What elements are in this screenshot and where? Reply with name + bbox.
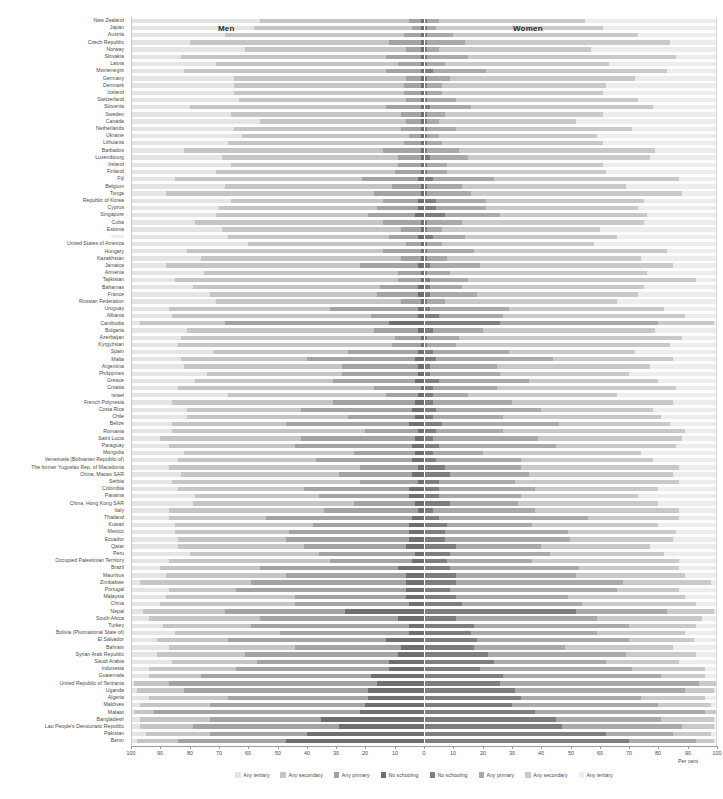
bar-segment <box>424 516 439 520</box>
bar-segment <box>477 292 638 296</box>
bar-segment <box>424 696 521 700</box>
bar-segment <box>131 472 181 476</box>
bar-segment <box>427 55 468 59</box>
bar-segment <box>406 47 421 51</box>
country-label: Jamaica <box>0 262 128 269</box>
country-label: China <box>0 600 128 607</box>
bar-segment <box>679 465 717 469</box>
women-bar <box>424 566 717 570</box>
bar-segment <box>661 415 717 419</box>
legend-item[interactable]: Any secondary <box>280 772 322 778</box>
bar-segment <box>427 249 474 253</box>
bar-segment <box>424 602 462 606</box>
bar-segment <box>131 191 166 195</box>
bar-segment <box>184 451 354 455</box>
bar-segment <box>439 119 577 123</box>
bar-segment <box>131 357 181 361</box>
bar-segment <box>427 299 445 303</box>
axis-tick-label: 30 <box>509 750 515 756</box>
men-bar <box>131 328 424 332</box>
bar-segment <box>647 213 717 217</box>
women-bar <box>424 278 717 282</box>
country-label: Cambodia <box>0 320 128 327</box>
bar-segment <box>245 47 406 51</box>
women-bar <box>424 523 717 527</box>
bar-segment <box>392 343 421 347</box>
bar-segment <box>228 638 386 642</box>
bar-segment <box>450 552 550 556</box>
bar-segment <box>427 170 448 174</box>
legend-item[interactable]: Any tertiary <box>235 772 269 778</box>
men-bar <box>131 732 424 736</box>
bar-segment <box>424 508 433 512</box>
bar-segment <box>301 436 415 440</box>
women-bar <box>424 256 717 260</box>
bar-segment <box>395 170 421 174</box>
bar-segment <box>131 177 175 181</box>
men-bar <box>131 609 424 613</box>
bar-segment <box>398 616 424 620</box>
bar-segment <box>210 703 365 707</box>
bar-segment <box>442 83 606 87</box>
legend-item[interactable]: Any tertiary <box>579 772 613 778</box>
country-label: New Zealand <box>0 17 128 24</box>
bar-segment <box>673 645 717 649</box>
bar-segment <box>222 155 398 159</box>
bar-segment <box>617 235 717 239</box>
bar-segment <box>172 429 365 433</box>
bar-segment <box>184 148 383 152</box>
axis-tick-label: 60 <box>597 750 603 756</box>
bar-segment <box>445 537 571 541</box>
bar-segment <box>427 19 439 23</box>
men-bar <box>131 256 424 260</box>
bar-segment <box>131 40 190 44</box>
bar-segment <box>500 213 647 217</box>
bar-segment <box>131 184 225 188</box>
bar-segment <box>131 256 201 260</box>
bar-segment <box>433 436 538 440</box>
chart-legend: Any tertiaryAny secondaryAny primaryNo s… <box>131 768 717 782</box>
bar-segment <box>702 616 717 620</box>
women-bar <box>424 285 717 289</box>
bar-segment <box>131 119 260 123</box>
bar-segment <box>447 523 532 527</box>
bar-segment <box>131 26 254 30</box>
bar-segment <box>131 364 184 368</box>
bar-segment <box>442 141 603 145</box>
women-bar <box>424 645 717 649</box>
bar-segment <box>409 487 424 491</box>
axis-tick <box>571 746 572 749</box>
bar-segment <box>131 552 190 556</box>
bar-segment <box>163 624 251 628</box>
bar-segment <box>658 523 717 527</box>
bar-segment <box>131 508 169 512</box>
men-bar <box>131 184 424 188</box>
legend-item[interactable]: No schooling <box>381 772 419 778</box>
bar-segment <box>160 436 301 440</box>
country-label: Ireland <box>0 161 128 168</box>
bar-segment <box>439 19 586 23</box>
bar-segment <box>131 321 140 325</box>
country-label: Barbados <box>0 147 128 154</box>
bar-segment <box>535 710 705 714</box>
country-label: Malta <box>0 356 128 363</box>
bar-segment <box>404 91 422 95</box>
women-bar <box>424 55 717 59</box>
bar-segment <box>131 112 231 116</box>
legend-item[interactable]: Any secondary <box>525 772 567 778</box>
bar-segment <box>679 588 717 592</box>
bar-segment <box>606 732 673 736</box>
country-label: Singapore <box>0 211 128 218</box>
legend-item[interactable]: Any primary <box>334 772 370 778</box>
bar-segment <box>424 465 445 469</box>
legend-item[interactable]: No schooling <box>430 772 468 778</box>
bar-segment <box>445 112 603 116</box>
bar-segment <box>131 19 260 23</box>
bar-segment <box>447 163 602 167</box>
bar-segment <box>427 26 436 30</box>
men-bar <box>131 710 424 714</box>
men-bar <box>131 307 424 311</box>
legend-item[interactable]: Any primary <box>479 772 515 778</box>
bar-segment <box>401 127 422 131</box>
bar-segment <box>184 364 342 368</box>
